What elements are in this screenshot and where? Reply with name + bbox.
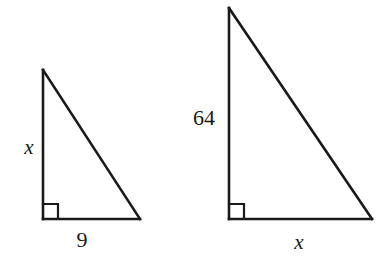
small-triangle-hypotenuse bbox=[43, 70, 140, 219]
geometry-figure: x 9 64 x bbox=[0, 0, 382, 263]
large-triangle-hypotenuse bbox=[229, 8, 372, 219]
triangles-drawing-canvas bbox=[0, 0, 382, 263]
small-triangle-right-angle-icon bbox=[43, 204, 58, 219]
small-triangle-horizontal-leg-label: 9 bbox=[70, 229, 94, 251]
small-right-triangle bbox=[43, 70, 140, 219]
large-triangle-horizontal-leg-label: x bbox=[288, 232, 310, 253]
large-right-triangle bbox=[229, 8, 372, 219]
large-triangle-right-angle-icon bbox=[229, 204, 244, 219]
small-triangle-vertical-leg-label: x bbox=[18, 137, 40, 158]
large-triangle-vertical-leg-label: 64 bbox=[183, 107, 225, 129]
